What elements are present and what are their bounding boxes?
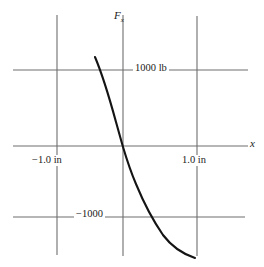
x-tick-label-positive-1in: 1.0 in	[180, 155, 208, 166]
x-axis-label: x	[250, 138, 255, 149]
x-tick-label-negative-1in: −1.0 in	[30, 155, 64, 166]
y-axis-label: Fx	[114, 10, 124, 24]
plot-canvas	[0, 0, 264, 267]
force-displacement-figure: Fx x 1000 lb −1000 −1.0 in 1.0 in	[0, 0, 264, 267]
y-axis-label-subscript: x	[121, 16, 124, 24]
y-tick-label-negative-1000: −1000	[74, 209, 105, 220]
y-axis-label-symbol: F	[114, 9, 121, 21]
y-tick-label-positive-1000: 1000 lb	[133, 63, 169, 74]
